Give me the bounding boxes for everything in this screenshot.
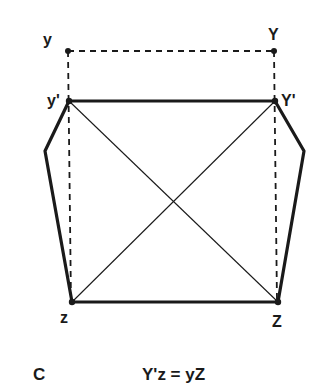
label-y: y [43, 32, 52, 48]
dashed-construction-lines [68, 51, 277, 302]
dashed-line-y-z [68, 51, 71, 302]
point-yprime-dot [66, 98, 72, 104]
hexagon-outline [45, 101, 304, 302]
right-edge [275, 101, 304, 302]
label-Y-prime: Y' [281, 93, 295, 109]
equation-caption: Y'z = yZ [142, 366, 205, 383]
point-Yprime-dot [272, 98, 278, 104]
point-Y-dot [271, 48, 277, 54]
label-Y: Y [268, 27, 279, 43]
diagonal-Yprime-z [72, 101, 275, 302]
label-Z: Z [272, 314, 282, 330]
point-Z-dot [275, 299, 281, 305]
diagonal-lines [69, 101, 278, 302]
dashed-line-Y-Z [274, 51, 277, 302]
point-y-dot [65, 48, 71, 54]
point-z-dot [69, 299, 75, 305]
panel-label: C [33, 366, 45, 383]
geometry-diagram [0, 0, 320, 392]
vertex-dots [65, 48, 281, 305]
left-edge [45, 101, 72, 302]
label-y-prime: y' [47, 93, 60, 109]
label-z: z [60, 310, 68, 326]
